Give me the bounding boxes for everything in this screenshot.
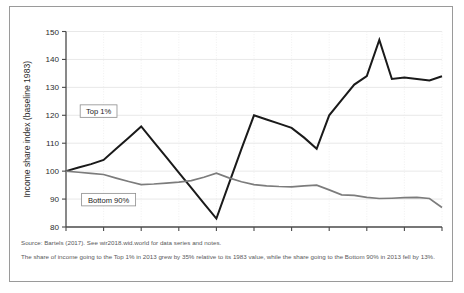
- footnote-block: Source: Bartels (2017). See wir2018.wid.…: [21, 238, 445, 262]
- x-tick-label-2013: 2013: [433, 234, 452, 235]
- x-tick-label-2004: 2004: [320, 234, 339, 235]
- y-tick-label-140: 140: [45, 55, 59, 64]
- series-line-top-1: [66, 40, 442, 219]
- series-label-text-top-1: Top 1%: [86, 107, 112, 116]
- chart-plot-area: 8090100110120130140150 19831986198919921…: [10, 7, 454, 235]
- y-tick-label-90: 90: [50, 195, 60, 204]
- x-tick-label-1983: 1983: [57, 234, 76, 235]
- series-label-text-bottom-90: Bottom 90%: [88, 196, 130, 205]
- x-tick-label-2010: 2010: [395, 234, 414, 235]
- x-tick-label-1998: 1998: [245, 234, 264, 235]
- footnote-source: Source: Bartels (2017). See wir2018.wid.…: [21, 238, 445, 248]
- x-tick-label-1986: 1986: [95, 234, 114, 235]
- x-axis: [66, 227, 442, 231]
- y-tick-label-130: 130: [45, 83, 59, 92]
- x-tick-label-2001: 2001: [283, 234, 302, 235]
- y-tick-label-150: 150: [45, 28, 59, 37]
- line-chart: 8090100110120130140150 19831986198919921…: [10, 7, 454, 235]
- data-series-group: [66, 40, 442, 219]
- footnote-note: The share of income going to the Top 1% …: [21, 252, 445, 262]
- x-tick-label-2007: 2007: [358, 234, 377, 235]
- y-axis: [62, 32, 66, 228]
- figure-frame: 8090100110120130140150 19831986198919921…: [9, 6, 453, 282]
- y-tick-label-120: 120: [45, 111, 59, 120]
- y-axis-tick-labels: 8090100110120130140150: [45, 28, 59, 233]
- y-tick-label-100: 100: [45, 167, 59, 176]
- y-tick-label-80: 80: [50, 223, 60, 232]
- x-tick-label-1992: 1992: [170, 234, 189, 235]
- y-tick-label-110: 110: [46, 139, 59, 148]
- x-tick-label-1995: 1995: [207, 234, 226, 235]
- x-axis-tick-labels: 1983198619891992199519982001200420072010…: [57, 234, 452, 235]
- x-tick-label-1989: 1989: [132, 234, 151, 235]
- y-axis-title: Income share index (baseline 1983): [22, 61, 32, 198]
